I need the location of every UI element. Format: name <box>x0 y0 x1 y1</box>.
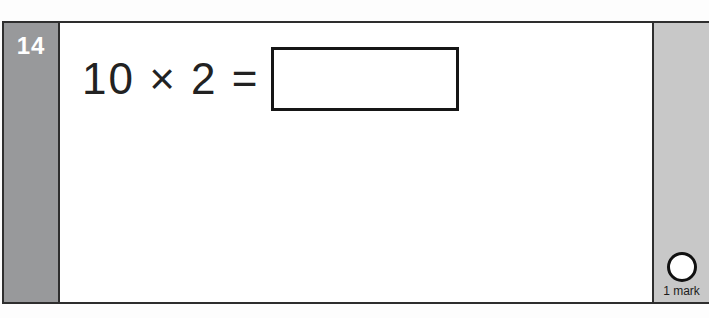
answer-box[interactable] <box>271 47 459 111</box>
mark-circle <box>667 252 697 282</box>
equation-text: 10 × 2 = <box>82 57 259 101</box>
question-number: 14 <box>17 34 46 58</box>
question-number-strip: 14 <box>4 23 60 302</box>
mark-label: 1 mark <box>663 285 700 298</box>
equation-row: 10 × 2 = <box>82 47 652 111</box>
question-block: 14 10 × 2 = 1 mark <box>2 21 709 304</box>
mark-strip: 1 mark <box>652 23 709 302</box>
question-body: 10 × 2 = <box>60 23 652 302</box>
